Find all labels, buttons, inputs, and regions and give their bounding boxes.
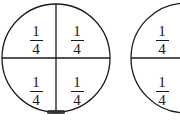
denominator: 4 — [149, 93, 175, 108]
denominator: 4 — [23, 93, 49, 108]
denominator: 4 — [149, 42, 175, 57]
bottom-smudge-artifact — [47, 110, 65, 114]
numerator: 1 — [23, 75, 49, 90]
denominator: 4 — [64, 93, 90, 108]
fraction-label-c1-upper-right: 1 4 — [64, 24, 90, 57]
fraction-label-c2-upper: 1 4 — [149, 24, 175, 57]
fraction-label-c1-lower-left: 1 4 — [23, 75, 49, 108]
denominator: 4 — [64, 42, 90, 57]
numerator: 1 — [64, 24, 90, 39]
numerator: 1 — [64, 75, 90, 90]
fraction-label-c1-upper-left: 1 4 — [23, 24, 49, 57]
numerator: 1 — [23, 24, 49, 39]
numerator: 1 — [149, 75, 175, 90]
fraction-label-c1-lower-right: 1 4 — [64, 75, 90, 108]
fraction-label-c2-lower: 1 4 — [149, 75, 175, 108]
numerator: 1 — [149, 24, 175, 39]
denominator: 4 — [23, 42, 49, 57]
circle-one-group — [2, 4, 110, 112]
fraction-circles-figure: 1 4 1 4 1 4 1 4 1 4 1 4 — [0, 0, 180, 120]
